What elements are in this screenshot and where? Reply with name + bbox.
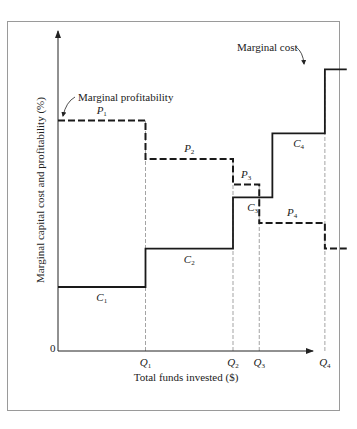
x-axis-label: Total funds invested ($) — [134, 371, 239, 384]
marginal-cost-annotation: Marginal cost — [237, 41, 298, 53]
x-tick-label-q3: Q3 — [254, 356, 266, 370]
step-label-c4: C4 — [293, 137, 304, 151]
y-axis-label: Marginal capital cost and profitability … — [34, 97, 47, 283]
step-label-p2: P2 — [183, 142, 195, 156]
q-guide-lines — [146, 69, 325, 351]
x-tick-label-q1: Q1 — [140, 356, 152, 370]
x-tick-label-q4: Q4 — [319, 356, 331, 370]
marginal-profitability-annotation: Marginal profitability — [78, 91, 174, 103]
origin-label: 0 — [50, 342, 56, 354]
step-chart: C1C2C3C4P1P2P3P4 Q1Q2Q3Q4 0 Total funds … — [0, 0, 357, 429]
step-label-p3: P3 — [240, 168, 252, 182]
step-label-c3: C3 — [247, 201, 258, 215]
marginal-profitability-line — [58, 121, 347, 249]
x-tick-label-q2: Q2 — [227, 356, 239, 370]
marginal-profitability-pointer-arrow — [63, 97, 75, 116]
x-tick-labels: Q1Q2Q3Q4 — [140, 356, 331, 370]
step-label-p1: P1 — [96, 104, 108, 118]
step-label-c1: C1 — [96, 291, 107, 305]
step-label-c2: C2 — [184, 253, 195, 267]
step-label-p4: P4 — [286, 206, 298, 220]
